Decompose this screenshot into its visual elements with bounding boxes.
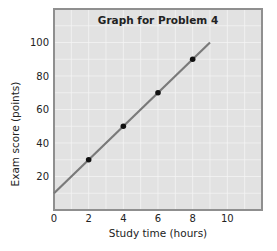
x-tick-label: 4	[120, 213, 126, 224]
x-tick-label: 2	[85, 213, 91, 224]
y-axis-ticks: 20406080100	[30, 37, 49, 182]
data-point	[155, 90, 161, 96]
y-tick-label: 100	[30, 37, 49, 48]
y-tick-label: 20	[36, 171, 49, 182]
x-tick-label: 0	[51, 213, 57, 224]
y-axis-title: Exam score (points)	[9, 82, 21, 187]
data-point	[190, 56, 196, 62]
x-axis-ticks: 0246810	[51, 213, 234, 224]
chart: Graph for Problem 4 0246810 20406080100 …	[0, 0, 277, 251]
y-tick-label: 60	[36, 104, 49, 115]
y-tick-label: 40	[36, 138, 49, 149]
x-tick-label: 6	[155, 213, 161, 224]
chart-title: Graph for Problem 4	[98, 14, 218, 26]
y-tick-label: 80	[36, 71, 49, 82]
x-tick-label: 10	[221, 213, 234, 224]
x-tick-label: 8	[189, 213, 195, 224]
x-axis-title: Study time (hours)	[109, 227, 207, 239]
data-point	[121, 123, 127, 129]
data-point	[86, 157, 92, 163]
